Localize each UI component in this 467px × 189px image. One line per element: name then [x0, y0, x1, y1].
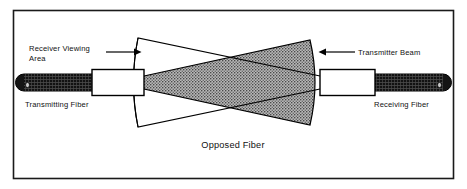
- figure-caption: Opposed Fiber: [201, 140, 264, 150]
- transmitting-fiber-ferrule: [92, 70, 144, 96]
- receiver-viewing-area-label-line1: Receiver Viewing: [29, 44, 90, 53]
- receiving-fiber-texture: [375, 74, 443, 91]
- transmitter-beam-label: Transmitter Beam: [358, 48, 420, 57]
- opposed-fiber-figure: Receiver Viewing Area Transmitting Fiber…: [0, 0, 467, 189]
- diagram-canvas: Receiver Viewing Area Transmitting Fiber…: [0, 0, 467, 189]
- transmitting-fiber-texture: [24, 74, 92, 91]
- receiving-fiber-core: [438, 82, 442, 87]
- receiving-fiber-label: Receiving Fiber: [374, 100, 429, 109]
- receiving-fiber-ferrule: [320, 70, 375, 96]
- transmitting-fiber-label: Transmitting Fiber: [25, 100, 89, 109]
- receiver-viewing-area-label-line2: Area: [29, 54, 46, 63]
- transmitting-fiber-core: [26, 82, 30, 87]
